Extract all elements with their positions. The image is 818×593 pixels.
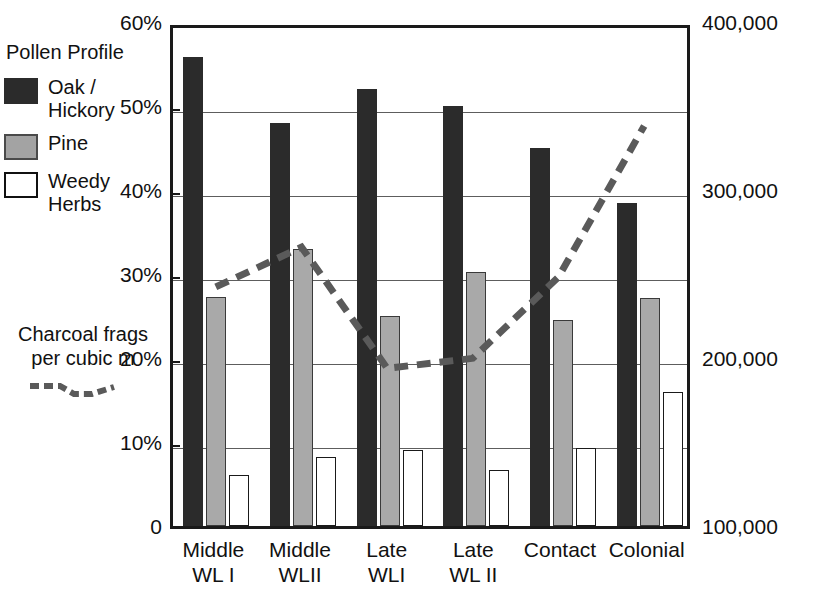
bar-weed [229,475,249,526]
left-axis-tick [170,109,180,111]
left-axis-tick-label: 20% [62,347,162,371]
bar-pine [206,297,226,526]
x-axis-category-line: WL II [430,562,517,587]
left-axis-tick-label: 0 [62,515,162,539]
bar-group [433,28,520,526]
x-axis-category-line: Contact [517,537,604,562]
bar-pine [466,272,486,526]
plot-area-wrapper: 010%20%30%40%50%60% 100,000200,000300,00… [0,0,818,593]
bar-group [346,28,433,526]
x-axis-category-line: Colonial [603,537,690,562]
left-axis-tick-label: 10% [62,431,162,455]
bar-oak [270,123,290,526]
bar-group [260,28,347,526]
left-axis-tick-label: 40% [62,179,162,203]
right-axis-tick-label: 200,000 [702,347,778,371]
bar-weed [316,457,336,526]
x-axis-category-line: WLII [257,562,344,587]
bar-oak [443,106,463,526]
bar-oak [530,148,550,526]
x-axis-category-line: Late [430,537,517,562]
bar-group [173,28,260,526]
bar-weed [663,392,683,526]
x-axis-category-label: MiddleWLII [257,537,344,587]
right-axis-tick-label: 400,000 [702,11,778,35]
bar-oak [357,89,377,526]
bar-series-container [173,28,687,526]
chart-figure: Pollen Profile Oak / Hickory Pine Weedy … [0,0,818,593]
x-axis-category-label: LateWLI [343,537,430,587]
x-axis-category-line: WL I [170,562,257,587]
x-axis-category-line: WLI [343,562,430,587]
x-axis-category-label: Colonial [603,537,690,562]
bar-weed [403,450,423,526]
left-axis-tick [170,193,180,195]
bar-pine [293,249,313,526]
bar-weed [489,470,509,526]
left-axis-tick-label: 50% [62,95,162,119]
plot-frame [170,25,690,529]
x-axis-labels: MiddleWL IMiddleWLIILateWLILateWL IICont… [170,533,690,593]
bar-pine [553,320,573,526]
bar-oak [183,57,203,526]
bar-oak [617,203,637,526]
x-axis-category-line: Late [343,537,430,562]
x-axis-category-line: Middle [257,537,344,562]
left-axis-tick [170,445,180,447]
x-axis-category-label: Contact [517,537,604,562]
left-axis-tick [170,361,180,363]
bar-weed [576,448,596,526]
x-axis-category-line: Middle [170,537,257,562]
bar-group [606,28,693,526]
right-axis-tick-label: 100,000 [702,515,778,539]
x-axis-category-label: LateWL II [430,537,517,587]
bar-group [520,28,607,526]
x-axis-category-label: MiddleWL I [170,537,257,587]
bar-pine [640,298,660,526]
left-axis-tick-label: 30% [62,263,162,287]
right-axis-tick-label: 300,000 [702,179,778,203]
left-axis-tick-label: 60% [62,11,162,35]
left-axis-tick [170,277,180,279]
bar-pine [380,316,400,526]
